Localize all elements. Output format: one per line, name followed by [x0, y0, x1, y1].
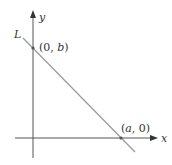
- x-axis-label: x: [161, 132, 168, 145]
- y-axis-arrow-icon: [30, 10, 36, 18]
- line-intercepts-diagram: y x L (0, b) (a, 0): [0, 0, 172, 165]
- line-L: [23, 38, 135, 152]
- x-intercept-label: (a, 0): [121, 122, 150, 135]
- x-axis-arrow-icon: [150, 135, 158, 141]
- y-axis-label: y: [38, 11, 46, 24]
- y-intercept-label: (0, b): [39, 41, 69, 54]
- y-intercept-point: [31, 46, 34, 49]
- x-intercept-point: [119, 136, 122, 139]
- line-label: L: [13, 28, 21, 41]
